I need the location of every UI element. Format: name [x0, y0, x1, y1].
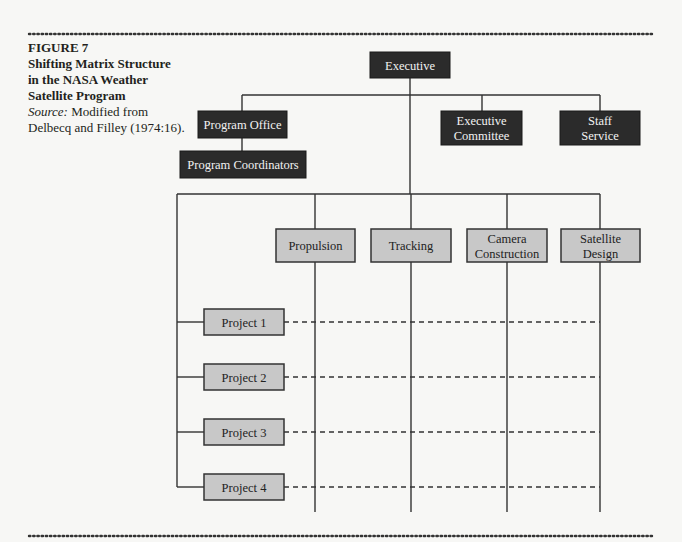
project-box-label: Project 1 [222, 316, 267, 330]
staff-service-box-label: Service [581, 129, 619, 143]
executive-committee-box-label: Executive [457, 114, 507, 128]
org-chart: ExecutiveProgram OfficeProgram Coordinat… [0, 0, 682, 542]
project-box-label: Project 3 [222, 426, 267, 440]
satellite-design-box-label: Satellite [580, 232, 621, 246]
project-box-label: Project 2 [222, 371, 267, 385]
tracking-box-label: Tracking [389, 239, 434, 253]
staff-service-box-label: Staff [588, 114, 613, 128]
project-box-label: Project 4 [222, 481, 268, 495]
program-coordinators-box-label: Program Coordinators [187, 158, 299, 172]
camera-construction-box-label: Camera [488, 232, 527, 246]
program-office-box-label: Program Office [204, 118, 282, 132]
camera-construction-box-label: Construction [475, 247, 540, 261]
propulsion-box-label: Propulsion [288, 239, 343, 253]
executive-box-label: Executive [385, 59, 435, 73]
executive-committee-box-label: Committee [454, 129, 510, 143]
satellite-design-box-label: Design [583, 247, 619, 261]
